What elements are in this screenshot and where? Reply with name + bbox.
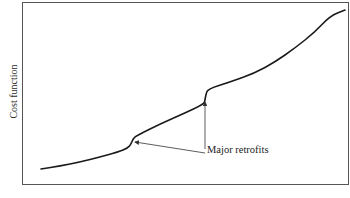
y-axis-label: Cost function xyxy=(8,47,19,137)
plot-frame xyxy=(23,3,349,185)
chart-canvas xyxy=(0,0,350,198)
annotation-arrow xyxy=(135,142,205,153)
cost-curve-line xyxy=(41,10,345,169)
annotation-arrows xyxy=(135,102,205,153)
annotation-major-retrofits: Major retrofits xyxy=(207,144,269,155)
